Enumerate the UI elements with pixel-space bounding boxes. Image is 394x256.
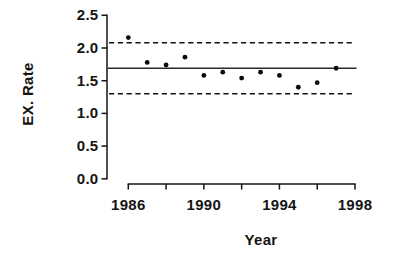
- y-tick-label: 1.5: [77, 72, 99, 89]
- x-tick-label: 1994: [262, 196, 297, 213]
- data-point: [145, 60, 150, 65]
- data-point: [334, 66, 339, 71]
- x-tick-label: 1998: [338, 196, 373, 213]
- y-tick-label: 2.0: [77, 39, 99, 56]
- x-axis-title: Year: [245, 231, 278, 248]
- data-point: [126, 35, 131, 40]
- y-tick-label: 2.5: [77, 6, 99, 23]
- x-tick-label: 1990: [187, 196, 222, 213]
- x-tick-label: 1986: [111, 196, 146, 213]
- y-tick-label: 0.0: [77, 170, 99, 187]
- y-tick-label: 0.5: [77, 137, 99, 154]
- data-point: [201, 73, 206, 78]
- data-point: [296, 85, 301, 90]
- data-point: [315, 80, 320, 85]
- data-point: [220, 70, 225, 75]
- y-axis-title: EX. Rate: [19, 62, 36, 125]
- data-point: [239, 76, 244, 81]
- scatter-plot-canvas: 0.00.51.01.52.02.51986199019941998: [0, 0, 394, 256]
- data-point: [258, 70, 263, 75]
- data-point: [277, 73, 282, 78]
- control-chart-figure: 0.00.51.01.52.02.51986199019941998 EX. R…: [0, 0, 394, 256]
- y-tick-label: 1.0: [77, 104, 99, 121]
- data-point: [183, 55, 188, 60]
- data-point: [164, 63, 169, 68]
